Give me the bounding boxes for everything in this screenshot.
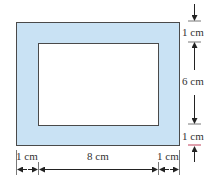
label-inner-height: 6 cm bbox=[182, 75, 204, 87]
label-inner-width: 8 cm bbox=[87, 150, 109, 162]
label-right-border: 1 cm bbox=[157, 150, 179, 162]
label-top-border: 1 cm bbox=[182, 26, 204, 38]
label-bottom-border: 1 cm bbox=[182, 130, 204, 142]
inner-opening bbox=[39, 44, 159, 126]
label-left-border: 1 cm bbox=[16, 150, 38, 162]
frame-diagram: 1 cm 6 cm 1 cm 1 cm 8 cm 1 cm bbox=[0, 0, 218, 185]
